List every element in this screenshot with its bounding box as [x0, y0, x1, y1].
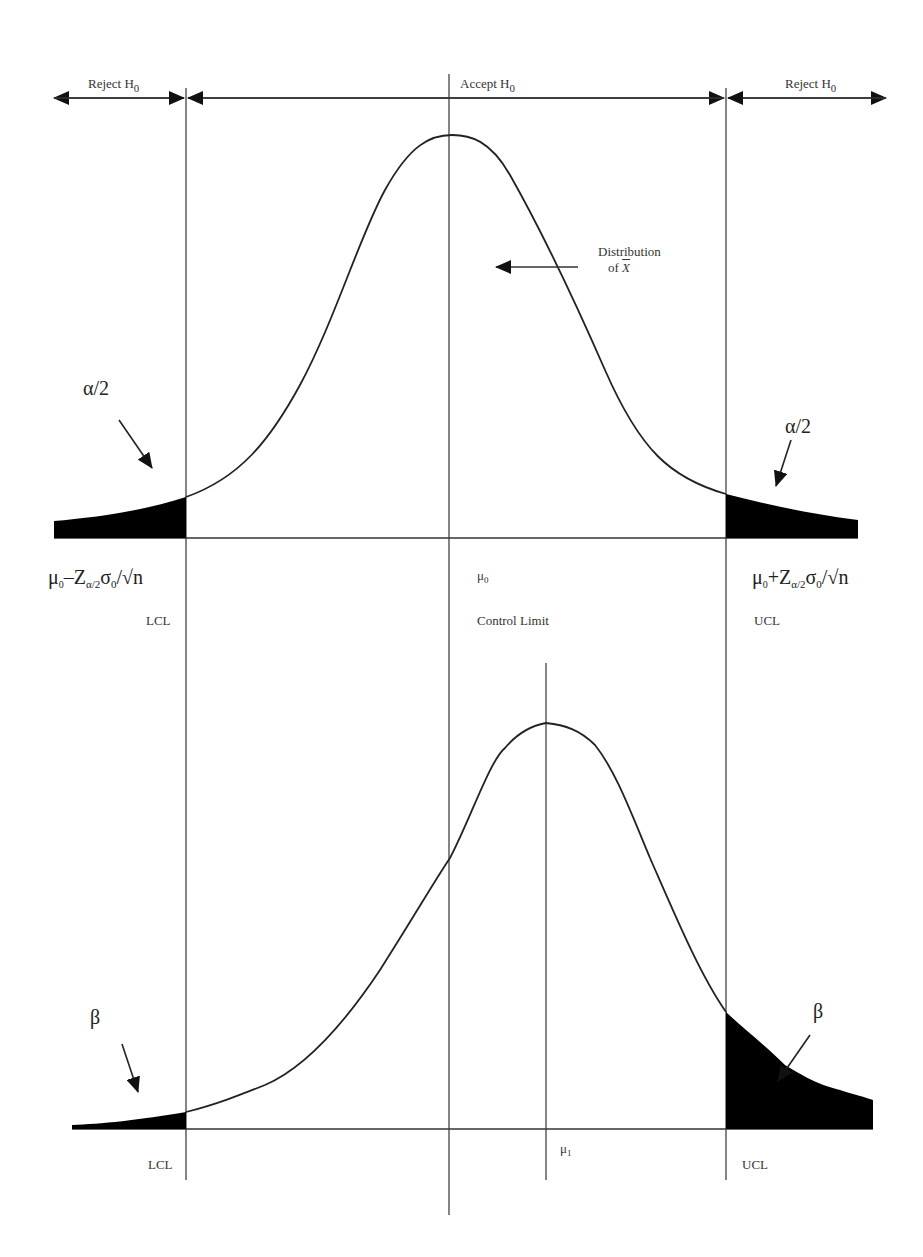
- alpha-left-label: α/2: [83, 377, 109, 400]
- beta-left-label: β: [90, 1006, 100, 1029]
- bottom-ucl-label: UCL: [742, 1157, 768, 1173]
- reject-left-label: Reject H0: [88, 76, 139, 94]
- mu0-label: μ0: [477, 568, 488, 585]
- alpha-left-tail: [54, 497, 186, 538]
- lcl-formula: μ0–Zα/2σ0/√n: [48, 566, 143, 590]
- distribution-label: Distribution of X: [598, 244, 661, 276]
- beta-right-tail: [726, 1012, 873, 1129]
- top-ucl-label: UCL: [754, 613, 780, 629]
- alpha-right-label: α/2: [785, 415, 811, 438]
- reject-right-label: Reject H0: [785, 76, 836, 94]
- mu1-label: μ1: [560, 1141, 571, 1158]
- alpha-right-tail: [726, 494, 858, 538]
- control-chart-diagram: [0, 0, 923, 1257]
- bottom-lcl-label: LCL: [148, 1157, 173, 1173]
- ucl-formula: μ0+Zα/2σ0/√n: [752, 566, 848, 590]
- beta-left-arrow: [122, 1044, 138, 1092]
- h0-distribution-curve: [186, 135, 726, 497]
- beta-right-label: β: [813, 1000, 823, 1023]
- shifted-distribution-curve: [186, 723, 726, 1112]
- control-limit-label: Control Limit: [477, 613, 549, 629]
- alpha-right-arrow: [776, 440, 791, 486]
- beta-left-tail: [72, 1112, 186, 1129]
- alpha-left-arrow: [119, 420, 152, 468]
- accept-label: Accept H0: [460, 76, 515, 94]
- top-lcl-label: LCL: [146, 613, 171, 629]
